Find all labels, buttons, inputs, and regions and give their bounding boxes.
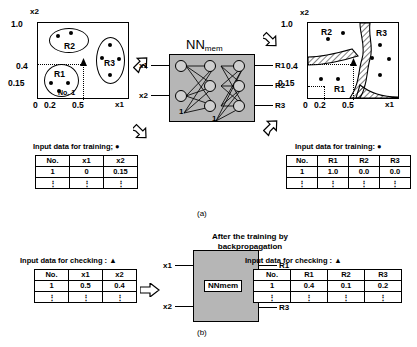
x-tick-02-right: 0.2 [314,101,326,110]
train-input-table: No. x1 x2 1 0 0.15 ⋮ ⋮ ⋮ [35,155,138,189]
check-output-table-title: Input data for checking : ▲ [245,257,342,265]
x-axis-label-right: x1 [385,101,394,109]
network-node [204,80,216,92]
cell-r2: 0.0 [349,167,380,178]
cell-ellipsis: ⋮ [318,178,349,189]
check-input-table-title: Input data for checking : ▲ [20,257,117,265]
panel-a-caption: (a) [197,209,207,218]
cell-ellipsis: ⋮ [254,292,291,303]
guide-line-horizontal [308,64,353,65]
col-header-r3: R3 [365,270,402,281]
x-tick-0-right: 0 [303,101,308,110]
network-node [233,100,245,112]
table-header-row: No. R1 R2 R3 [254,270,402,281]
data-point [49,81,53,85]
guide-line-horizontal [38,64,83,65]
table-row-continuation: ⋮ ⋮ ⋮ ⋮ [287,178,411,189]
table-row: 1 1.0 0.0 0.0 [287,167,411,178]
network-node [233,60,245,72]
cell-r1: 1.0 [318,167,349,178]
x-axis-label-left: x1 [115,101,124,109]
guide-line-horizontal-low [308,86,324,87]
guide-arrow-head [349,58,358,67]
bottom-output-line-r1 [259,265,277,266]
cell-ellipsis: ⋮ [365,292,402,303]
y-tick-1-0-right: 1.0 [281,20,293,29]
data-point [336,77,340,81]
decision-plot-area: R2 R3 R1 [307,22,399,99]
x-tick-02-left: 0.2 [44,101,56,110]
network-node [233,80,245,92]
table-row-continuation: ⋮ ⋮ ⋮ [35,292,137,303]
data-point [370,56,374,60]
table-header-row: No. R1 R2 R3 [287,156,411,167]
cell-ellipsis: ⋮ [70,178,104,189]
panel-b-caption: (b) [197,328,207,337]
col-header-x2: x2 [104,156,138,167]
y-tick-0-15-right: 0.15 [278,79,295,88]
network-input-label-x1: x1 [139,62,148,70]
bias-label-2: 1 [212,115,216,123]
y-axis-label-right: x2 [300,9,309,17]
data-point [56,34,60,38]
col-header-no: No. [287,156,318,167]
region-label-r2: R2 [64,42,75,51]
bottom-input-line-x1 [175,265,193,266]
guide-arrow-head [79,58,88,67]
table-row: 1 0 0.15 [36,167,138,178]
train-output-table-title: Input data for training: ● [295,143,382,151]
data-point [108,43,112,47]
guide-line-vertical-low [324,86,325,100]
data-point [319,77,323,81]
network-node [175,90,187,102]
bottom-output-label-r3: R3 [279,304,289,312]
col-header-r1: R1 [318,156,349,167]
cell-r1: 0.4 [291,281,328,292]
bottom-input-label-x1: x1 [163,262,172,270]
y-tick-1-0-left: 1.0 [11,20,23,29]
cell-ellipsis: ⋮ [35,292,69,303]
cell-x2: 0.15 [104,167,138,178]
y-tick-0-4-left: 0.4 [16,62,28,71]
table-row: 1 0.5 0.4 [35,281,137,292]
x-tick-0-left: 0 [33,101,38,110]
col-header-r3: R3 [380,156,411,167]
arrow-training-data-to-network [133,122,153,142]
cell-ellipsis: ⋮ [104,178,138,189]
decision-region-label-r1: R1 [334,85,345,94]
cell-ellipsis: ⋮ [287,178,318,189]
guide-line-vertical [353,64,354,100]
check-output-table: No. R1 R2 R3 1 0.4 0.1 0.2 ⋮ ⋮ ⋮ ⋮ [253,269,402,303]
x-tick-05-left: 0.5 [72,101,84,110]
bottom-network-label: NNmem [204,280,242,292]
network-node [204,100,216,112]
col-header-no: No. [36,156,70,167]
cell-ellipsis: ⋮ [36,178,70,189]
check-input-table: No. x1 x2 1 0.5 0.4 ⋮ ⋮ ⋮ [34,269,137,303]
bottom-output-line-r3 [259,307,277,308]
cell-ellipsis: ⋮ [349,178,380,189]
y-tick-0-4-right: 0.4 [286,62,298,71]
data-point [387,57,391,61]
guide-line-vertical [83,64,84,100]
data-point [69,31,73,35]
cell-r2: 0.1 [328,281,365,292]
train-output-table: No. R1 R2 R3 1 1.0 0.0 0.0 ⋮ ⋮ ⋮ ⋮ [286,155,411,189]
cell-ellipsis: ⋮ [380,178,411,189]
cell-ellipsis: ⋮ [291,292,328,303]
col-header-x2: x2 [103,270,137,281]
col-header-no: No. [254,270,291,281]
data-point [66,81,70,85]
y-axis-label-left: x2 [30,8,39,16]
arrow-to-training-output-table [263,118,283,138]
col-header-x1: x1 [70,156,104,167]
network-node [175,60,187,72]
table-header-row: No. x1 x2 [35,270,137,281]
cell-x1: 0.5 [69,281,103,292]
data-point [378,73,382,77]
col-header-r1: R1 [291,270,328,281]
data-point [341,31,345,35]
table-row: 1 0.4 0.1 0.2 [254,281,402,292]
region-label-r3: R3 [104,59,115,68]
network-output-line-r2 [255,85,273,86]
